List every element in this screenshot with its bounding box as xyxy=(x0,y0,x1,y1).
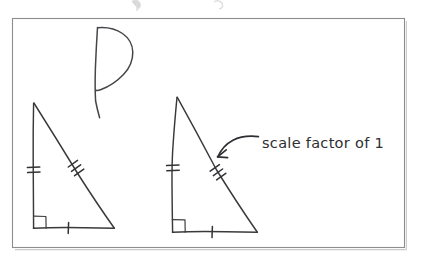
diagram-canvas: scale factor of 1 xyxy=(0,0,423,266)
annotation-hit[interactable] xyxy=(260,132,402,154)
top-clipped-ink xyxy=(132,0,223,11)
right-triangle-hit[interactable] xyxy=(164,90,264,240)
letter-p-hit[interactable] xyxy=(88,24,136,120)
